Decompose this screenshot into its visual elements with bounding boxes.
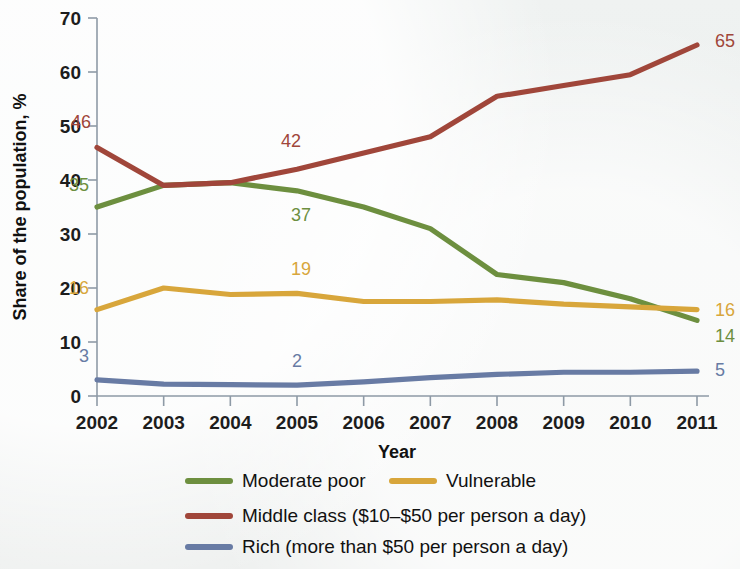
x-axis-tick-label: 2002 [76, 412, 118, 433]
y-axis-title: Share of the population, % [10, 93, 30, 320]
x-axis-tick-label: 2006 [343, 412, 385, 433]
data-point-label: 16 [715, 300, 735, 320]
x-axis-title: Year [378, 442, 416, 462]
y-axis-tick-label: 10 [60, 332, 81, 353]
series-line-3 [97, 371, 697, 385]
line-chart-figure: 010203040506070 200220032004200520062007… [0, 0, 740, 569]
x-axis: 2002200320042005200620072008200920102011 [76, 396, 718, 433]
data-point-label: 5 [715, 360, 725, 380]
data-point-label: 3 [79, 346, 89, 366]
legend-label-2: Middle class ($10–$50 per person a day) [242, 505, 586, 526]
x-axis-tick-label: 2008 [476, 412, 518, 433]
chart-svg: 010203040506070 200220032004200520062007… [0, 0, 740, 569]
data-point-label: 46 [71, 112, 91, 132]
data-series-group [97, 45, 697, 385]
data-point-label: 16 [69, 278, 89, 298]
y-axis-tick-label: 60 [60, 62, 81, 83]
x-axis-tick-label: 2009 [543, 412, 585, 433]
data-point-label: 35 [69, 175, 89, 195]
series-line-2 [97, 45, 697, 185]
y-axis-tick-label: 0 [70, 386, 81, 407]
x-axis-tick-label: 2007 [409, 412, 451, 433]
data-point-label: 14 [715, 326, 735, 346]
data-point-label: 65 [715, 31, 735, 51]
legend-label-3: Rich (more than $50 per person a day) [242, 536, 568, 557]
data-point-label: 37 [291, 205, 311, 225]
data-point-labels: 353714161916464265325 [69, 31, 735, 380]
data-point-label: 19 [291, 259, 311, 279]
legend-label-1: Vulnerable [446, 470, 536, 491]
x-axis-tick-label: 2003 [143, 412, 185, 433]
x-axis-tick-label: 2004 [209, 412, 252, 433]
y-axis-tick-label: 70 [60, 8, 81, 29]
x-axis-tick-label: 2010 [609, 412, 651, 433]
data-point-label: 2 [292, 351, 302, 371]
x-axis-tick-label: 2011 [676, 412, 718, 433]
legend-label-0: Moderate poor [242, 470, 366, 491]
x-axis-tick-label: 2005 [276, 412, 319, 433]
chart-legend: Moderate poorVulnerableMiddle class ($10… [188, 470, 586, 557]
y-axis-tick-label: 30 [60, 224, 81, 245]
data-point-label: 42 [281, 131, 301, 151]
